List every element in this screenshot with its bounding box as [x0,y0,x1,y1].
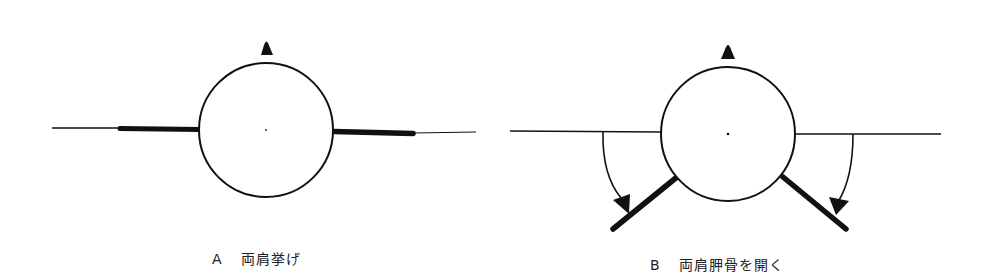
head-center-dot-b [727,133,730,136]
left-arm-a [52,128,200,130]
panel-caption-text-b: 両肩胛骨を開く [679,257,784,273]
left-reference-line [510,131,662,132]
panel-letter-a: A [212,251,223,267]
figure-canvas [0,0,982,278]
left-shoulder-bar [120,129,200,130]
head-center-dot-a [265,129,267,131]
left-rotation-arc [603,132,621,198]
nose-direction-icon-b [721,45,735,59]
nose-direction-icon-a [261,41,273,55]
right-arm-a [334,132,476,134]
right-arm-thin-line [413,132,476,133]
panel-letter-b: B [650,257,661,273]
right-rotation-arc [838,134,853,202]
panel-a [52,41,476,197]
panel-b [510,45,941,229]
right-shoulder-bar [334,132,413,134]
caption-panel-a: A両肩挙げ [212,248,301,268]
left-rotation-arrowhead-icon [613,194,630,214]
right-rotation-arrowhead-icon [829,197,849,215]
caption-panel-b: B両肩胛骨を開く [650,254,784,274]
panel-caption-text-a: 両肩挙げ [241,251,301,267]
